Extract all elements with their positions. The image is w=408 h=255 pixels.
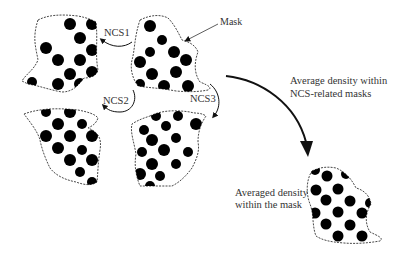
- averaging-arrowhead: [300, 141, 313, 157]
- average-density-caption: Average density within NCS-related masks: [290, 75, 390, 99]
- density-copy-top-left: [22, 15, 98, 92]
- density-blob: [86, 44, 98, 56]
- density-blob: [74, 78, 86, 90]
- density-blob: [333, 184, 344, 195]
- density-blob: [345, 220, 356, 231]
- density-blob: [146, 158, 158, 170]
- ncs1-arrow: [102, 40, 132, 46]
- density-blob: [171, 159, 181, 169]
- density-blob: [158, 144, 170, 156]
- density-blob: [168, 46, 180, 58]
- density-blob: [27, 77, 37, 87]
- mask-pointer-line: [187, 24, 218, 40]
- density-copy-bottom-left: [24, 106, 101, 187]
- density-blob: [135, 79, 145, 89]
- density-blob: [145, 47, 155, 57]
- density-blob: [157, 35, 167, 45]
- density-blob: [137, 147, 147, 157]
- density-blob: [357, 231, 368, 242]
- ncs1-label: NCS1: [104, 27, 130, 38]
- density-blob: [310, 165, 320, 175]
- ncs-averaging-diagram: NCS1 NCS2 NCS3 Mask Average density with…: [0, 0, 408, 255]
- density-blob: [64, 68, 76, 80]
- density-blob: [64, 106, 76, 118]
- density-blob: [161, 121, 171, 131]
- density-blob: [64, 18, 76, 30]
- averaged-density-caption: Averaged density within the mask: [235, 187, 311, 210]
- density-blob: [333, 231, 344, 242]
- density-blob: [40, 130, 52, 142]
- density-blob: [52, 54, 64, 66]
- density-blob: [64, 154, 76, 166]
- density-blob: [146, 68, 158, 80]
- density-blob: [52, 142, 64, 154]
- density-blob: [158, 80, 170, 92]
- density-blob: [170, 66, 182, 78]
- density-blob: [321, 195, 332, 206]
- density-blob: [86, 130, 98, 142]
- averaged-density-map: [307, 165, 381, 243]
- density-blob: [75, 167, 85, 177]
- density-blob: [52, 118, 64, 130]
- density-blob: [139, 125, 149, 135]
- ncs2-label: NCS2: [103, 95, 129, 106]
- density-blob: [41, 107, 51, 117]
- density-blob: [182, 80, 194, 92]
- density-blob: [77, 145, 87, 155]
- density-blob: [74, 32, 86, 44]
- density-blob: [86, 154, 98, 166]
- density-blob: [357, 208, 368, 219]
- density-blob: [77, 119, 87, 129]
- density-blob: [345, 196, 356, 207]
- density-blob: [311, 185, 322, 196]
- density-blob: [52, 78, 64, 90]
- density-blob: [180, 54, 192, 66]
- density-blob: [64, 130, 76, 142]
- average-density-line2: NCS-related masks: [290, 88, 371, 99]
- density-blob: [74, 54, 86, 66]
- average-density-line1: Average density within: [290, 75, 388, 86]
- density-blob: [155, 171, 165, 181]
- density-blob: [183, 147, 193, 157]
- density-blob: [171, 133, 181, 143]
- averaged-density-line2: within the mask: [235, 199, 303, 210]
- density-blob: [144, 20, 156, 32]
- density-blob: [146, 134, 158, 146]
- density-blob: [40, 42, 52, 54]
- density-blob: [134, 56, 146, 68]
- density-blob: [322, 171, 333, 182]
- ncs3-label: NCS3: [190, 93, 216, 104]
- density-blob: [145, 181, 155, 191]
- density-blob: [86, 66, 98, 78]
- averaged-density-line1: Averaged density: [235, 187, 309, 198]
- density-blob: [173, 111, 183, 121]
- density-copy-bottom-right: [131, 111, 206, 191]
- mask-label: Mask: [220, 16, 242, 27]
- density-blob: [134, 168, 146, 180]
- density-blob: [321, 219, 332, 230]
- density-blob: [333, 207, 344, 218]
- density-blob: [87, 177, 97, 187]
- density-copy-top-right: [131, 16, 210, 92]
